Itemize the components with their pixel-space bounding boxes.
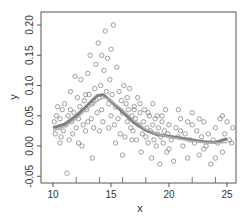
data-point [167, 147, 171, 151]
data-point [178, 129, 182, 133]
data-point [125, 120, 129, 124]
data-point [220, 114, 224, 118]
data-point [100, 53, 104, 57]
data-point [206, 132, 210, 136]
data-point [158, 162, 162, 166]
data-point [174, 126, 178, 130]
data-point [103, 29, 107, 33]
data-point [149, 156, 153, 160]
data-point [75, 95, 79, 99]
data-point [181, 144, 185, 148]
data-point [82, 98, 86, 102]
data-point [213, 156, 217, 160]
data-point [105, 56, 109, 60]
data-point [62, 102, 66, 106]
data-point [107, 126, 111, 130]
data-point [161, 141, 165, 145]
plot-frame [41, 12, 236, 183]
data-point [199, 135, 203, 139]
data-point [93, 86, 97, 90]
data-point [132, 108, 136, 112]
data-point [98, 83, 102, 87]
data-point [209, 162, 213, 166]
data-point [202, 120, 206, 124]
y-tick-label: 0.10 [24, 75, 35, 95]
data-point [185, 156, 189, 160]
data-point [59, 135, 63, 139]
data-point [154, 144, 158, 148]
data-point [94, 62, 98, 66]
data-point [76, 141, 80, 145]
data-point [68, 89, 72, 93]
data-point [91, 126, 95, 130]
data-point [231, 126, 235, 130]
data-point [138, 111, 142, 115]
data-point [220, 150, 224, 154]
data-point [127, 86, 131, 90]
data-point [101, 120, 105, 124]
data-point [86, 71, 90, 75]
data-point [73, 74, 77, 78]
data-point [120, 153, 124, 157]
data-point [213, 126, 217, 130]
y-tick-label: 0.20 [24, 15, 35, 35]
data-point [81, 123, 85, 127]
data-point [119, 98, 123, 102]
data-point [138, 102, 142, 106]
data-point [160, 120, 164, 124]
data-point [68, 108, 72, 112]
data-point [83, 129, 87, 133]
y-axis: -0.050.000.050.100.150.20 [24, 15, 41, 188]
data-point [167, 123, 171, 127]
data-point [151, 102, 155, 106]
data-point [66, 114, 70, 118]
data-point [190, 111, 194, 115]
data-point [58, 141, 62, 145]
x-tick-label: 10 [47, 189, 59, 200]
data-point [171, 159, 175, 163]
data-point [218, 117, 222, 121]
data-point [160, 114, 164, 118]
y-tick-label: 0.15 [24, 45, 35, 65]
data-point [163, 108, 167, 112]
data-point [65, 171, 69, 175]
data-point [183, 132, 187, 136]
data-points [52, 23, 235, 176]
data-point [95, 111, 99, 115]
x-axis: 10152025 [47, 177, 233, 200]
data-point [118, 132, 122, 136]
data-point [111, 23, 115, 27]
data-point [108, 77, 112, 81]
data-point [90, 156, 94, 160]
data-point [79, 77, 83, 81]
data-point [100, 108, 104, 112]
data-point [104, 89, 108, 93]
x-tick-label: 25 [221, 189, 233, 200]
data-point [139, 150, 143, 154]
data-point [58, 117, 62, 121]
data-point [190, 123, 194, 127]
data-point [151, 123, 155, 127]
data-point [152, 138, 156, 142]
data-point [86, 120, 90, 124]
data-point [113, 141, 117, 145]
data-point [67, 138, 71, 142]
data-point [134, 138, 138, 142]
data-point [223, 132, 227, 136]
data-point [126, 108, 130, 112]
data-point [97, 129, 101, 133]
y-tick-label: 0.00 [24, 136, 35, 156]
data-point [117, 89, 121, 93]
data-point [109, 47, 113, 51]
data-point [155, 114, 159, 118]
x-tick-label: 20 [163, 189, 175, 200]
data-point [124, 102, 128, 106]
data-point [125, 95, 129, 99]
data-point [202, 147, 206, 151]
data-point [131, 129, 135, 133]
data-point [60, 108, 64, 112]
data-point [53, 132, 57, 136]
data-point [129, 126, 133, 130]
data-point [136, 95, 140, 99]
y-axis-label: y [7, 94, 19, 100]
